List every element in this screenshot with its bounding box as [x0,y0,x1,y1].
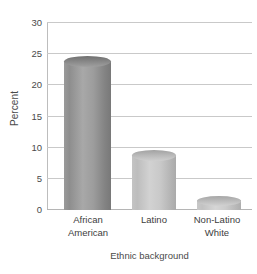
cylinder-body [132,155,176,210]
y-tick-label-10: 10 [31,142,42,153]
cylinder-shape [132,150,176,210]
x-tick-line-1: Latino [141,214,167,225]
x-tick-labels: African American Latino Non-Latino White [47,214,252,248]
plot-area: 30 25 20 15 10 5 0 [47,22,252,210]
cylinder-top-ellipse [132,150,176,161]
bars [47,22,252,210]
cylinder-top-ellipse [64,56,111,67]
y-tick-label-25: 25 [31,48,42,59]
bar-non-latino-white[interactable] [197,196,241,210]
x-tick-line-1: Non-Latino [194,214,240,225]
x-axis-title: Ethnic background [47,250,252,261]
y-tick-label-20: 20 [31,79,42,90]
y-tick-label-15: 15 [31,111,42,122]
x-tick-line-2: American [49,227,127,240]
y-axis-title: Percent [9,69,20,149]
y-tick-label-30: 30 [31,17,42,28]
bar-chart: Percent 30 25 20 15 10 5 0 [0,0,257,274]
bar-latino[interactable] [132,150,176,210]
y-tick-label-0: 0 [37,204,42,215]
y-tick-label-5: 5 [37,173,42,184]
cylinder-top-ellipse [197,196,241,206]
x-tick-line-1: African [73,214,103,225]
cylinder-body [64,61,111,210]
x-tick-label-non-latino-white: Non-Latino White [178,214,256,239]
cylinder-shape [197,196,241,210]
bar-african-american[interactable] [64,56,111,210]
x-tick-line-2: White [178,227,256,240]
cylinder-shape [64,56,111,210]
